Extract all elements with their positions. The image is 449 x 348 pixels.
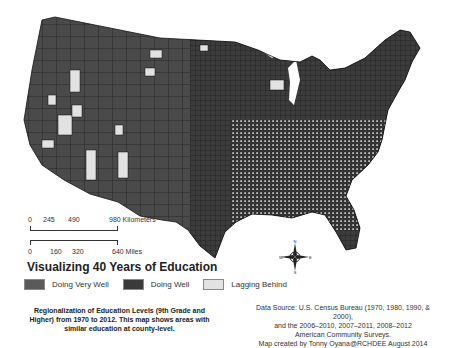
km-label-490: 490 (68, 216, 80, 223)
scale-bar: 0 245 490 980 Kilometers 0 160 320 640 M… (27, 216, 157, 260)
compass-rose-icon: N W E S (278, 240, 312, 274)
source-line-4: Map created by Tonny Oyana@RCHDEE August… (248, 339, 438, 348)
data-source: Data Source: U.S. Census Bureau (1970, 1… (248, 303, 438, 348)
km-bar (30, 226, 118, 231)
legend-swatch (203, 279, 224, 290)
km-label-0: 0 (28, 216, 32, 223)
svg-text:S: S (294, 270, 297, 274)
legend: Doing Very Well Doing Well Lagging Behin… (24, 279, 301, 290)
km-label-980: 980 Kilometers (109, 216, 156, 223)
map-title: Visualizing 40 Years of Education (27, 260, 217, 274)
legend-item-lagging-behind: Lagging Behind (203, 279, 287, 290)
mile-label-320: 320 (72, 248, 84, 255)
svg-text:W: W (279, 255, 283, 260)
map-caption: Regionalization of Education Levels (9th… (22, 306, 217, 333)
km-label-245: 245 (43, 216, 55, 223)
legend-label: Lagging Behind (231, 280, 287, 289)
mile-label-160: 160 (50, 248, 62, 255)
mile-label-640: 640 Miles (112, 248, 142, 255)
source-line-1: Data Source: U.S. Census Bureau (1970, 1… (248, 303, 438, 321)
svg-text:E: E (309, 255, 312, 260)
svg-text:N: N (294, 240, 297, 244)
legend-item-doing-well: Doing Well (123, 279, 190, 290)
mile-label-0: 0 (28, 248, 32, 255)
legend-label: Doing Well (151, 280, 190, 289)
legend-swatch (24, 279, 45, 290)
source-line-2: and the 2006–2010, 2007–2011, 2008–2012 (248, 321, 438, 330)
legend-item-doing-very-well: Doing Very Well (24, 279, 109, 290)
legend-swatch (123, 279, 144, 290)
legend-label: Doing Very Well (52, 280, 109, 289)
source-line-3: American Community Surveys. (248, 330, 438, 339)
mile-bar (30, 240, 118, 245)
